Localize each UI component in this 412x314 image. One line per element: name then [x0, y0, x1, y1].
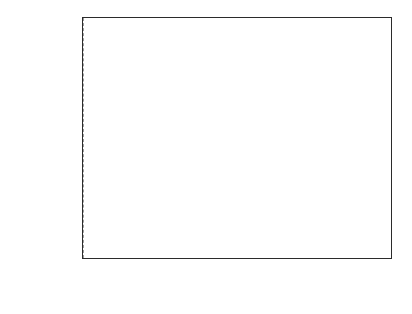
forest-plot-figure: [0, 0, 412, 314]
reference-line-rr-1: [83, 18, 84, 258]
plot-area: [82, 17, 392, 259]
